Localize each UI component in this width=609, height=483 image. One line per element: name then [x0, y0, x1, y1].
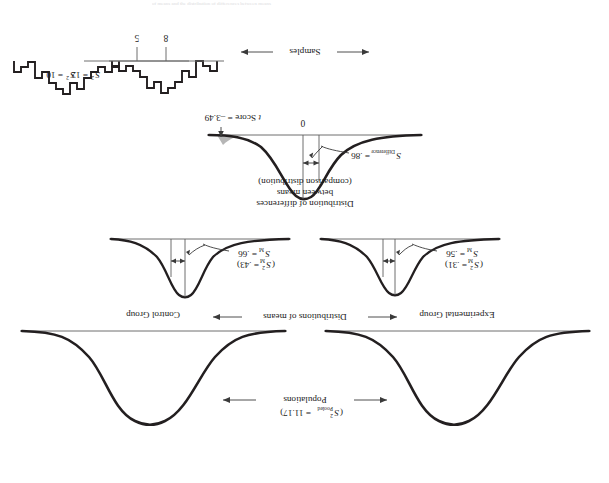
comparison-sd-label: S Difference = .86	[351, 149, 401, 161]
pooled-variance-label: ( S 2 Pooled = 11.17)	[280, 406, 343, 419]
samples-right-arrowhead	[241, 49, 248, 55]
experimental-sd-arrowhead-right	[171, 259, 176, 264]
populations-right-arrowhead	[223, 397, 230, 403]
populations-axis-label: Populations ( S 2 Pooled = 11.17)	[223, 395, 387, 419]
experimental-variance-superscript: 2	[262, 265, 265, 271]
experimental-sample-mean-label: 5	[134, 33, 139, 43]
control-sample-mean-label: 8	[163, 33, 168, 43]
experimental-variance-subscript: M	[260, 258, 265, 264]
control-population-curve	[22, 331, 285, 425]
samples-label: Samples	[289, 47, 321, 57]
experimental-sd-arrow	[171, 259, 185, 264]
control-variance-label: ( S 2 M = .31)	[445, 258, 483, 271]
experimental-sd-arrowhead-left	[180, 259, 185, 264]
experimental-sample-variance-superscript: 2	[66, 75, 69, 81]
experimental-sample-variance-value: = 10	[46, 70, 63, 80]
t-score-marker: t Score = –3.49	[204, 113, 261, 137]
experimental-sd-value: = .66	[238, 249, 257, 259]
dom-right-arrowhead	[213, 314, 220, 320]
control-sd-leader	[399, 245, 413, 255]
samples-axis-label: Samples	[241, 47, 369, 57]
comparison-sd-arrow	[303, 160, 319, 165]
comparison-zero-label: 0	[300, 118, 305, 128]
dom-left-arrowhead	[390, 314, 397, 320]
control-sd-label: S M = .56	[446, 247, 478, 259]
control-variance-superscript: 2	[470, 265, 473, 271]
control-population-group: Control Group	[20, 310, 287, 425]
control-variance-value: = .31)	[445, 260, 467, 270]
control-sample-histogram	[112, 61, 217, 93]
control-sd-arrowhead-right	[383, 259, 388, 264]
control-sd-arrow	[383, 259, 395, 264]
comparison-distribution-row: S Difference = .86 0 t Score = –3.49 Dis…	[204, 113, 423, 209]
experimental-sd-symbol: S	[265, 249, 270, 259]
control-sd-arrowhead-left	[390, 259, 395, 264]
populations-label: Populations	[283, 395, 327, 405]
pooled-variance-subscript: Pooled	[317, 406, 333, 412]
experimental-population-curve	[326, 331, 589, 425]
comparison-sd-symbol: S	[396, 151, 401, 161]
experimental-variance-label: ( S 2 M = .43)	[237, 258, 275, 271]
experimental-group-label: Experimental Group	[419, 310, 495, 320]
experimental-sd-label: S M = .66	[238, 247, 270, 259]
comparison-caption-line3: (comparison distribution)	[258, 177, 352, 187]
control-sample-variance-label: S 2 = 12	[71, 70, 100, 81]
rotated-figure-canvas: Experimental Group Control Group Populat…	[0, 0, 609, 483]
t-score-italic-t: t	[258, 113, 261, 123]
experimental-sd-subscript: M	[259, 247, 264, 253]
control-variance-subscript: M	[468, 258, 473, 264]
pooled-variance-symbol: S	[334, 408, 339, 418]
comparison-distribution-caption: Distribution of differences between mean…	[256, 177, 354, 209]
samples-row: Samples 5 S 2 = 10	[14, 33, 369, 94]
statistics-figure-svg: Experimental Group Control Group Populat…	[0, 0, 609, 483]
experimental-population-group: Experimental Group	[324, 310, 591, 425]
pooled-variance-value: = 11.17)	[280, 408, 311, 418]
control-sample-variance-symbol: S	[95, 70, 100, 80]
comparison-sd-arrowhead-right	[303, 160, 309, 165]
populations-row: Experimental Group Control Group Populat…	[20, 310, 591, 425]
control-variance-symbol: S	[474, 260, 479, 270]
comparison-sd-arrowhead-left	[314, 160, 320, 165]
figure-root: of means and the distribution of differe…	[0, 0, 609, 483]
pooled-variance-open-paren: (	[340, 408, 343, 418]
control-sample-variance-value: = 12	[71, 70, 88, 80]
control-sample-variance-superscript: 2	[91, 75, 94, 81]
control-sd-value: = .56	[446, 249, 465, 259]
experimental-variance-symbol: S	[266, 260, 271, 270]
experimental-sd-leader	[189, 245, 205, 255]
comparison-sd-subscript: Difference	[371, 149, 395, 155]
control-sd-symbol: S	[473, 249, 478, 259]
distributions-of-means-label: Distributions of means	[263, 312, 347, 322]
comparison-caption-line1: Distribution of differences	[256, 199, 354, 209]
control-sd-subscript: M	[467, 247, 472, 253]
control-sample-histogram-group: 8 S 2 = 12	[71, 33, 224, 93]
control-group-label: Control Group	[126, 310, 180, 320]
pooled-variance-superscript: 2	[330, 413, 333, 419]
samples-left-arrowhead	[362, 49, 369, 55]
comparison-sd-leader	[321, 146, 349, 153]
experimental-variance-open-paren: (	[272, 260, 275, 270]
comparison-caption-line2: between means	[276, 188, 333, 198]
control-sd-leader2	[412, 244, 437, 251]
control-variance-open-paren: (	[480, 260, 483, 270]
populations-left-arrowhead	[380, 397, 387, 403]
experimental-mean-distribution: S M = .66 ( S 2 M = .43)	[109, 239, 291, 297]
control-mean-distribution: S M = .56 ( S 2 M = .31)	[319, 239, 501, 295]
comparison-sd-value: = .86	[351, 151, 370, 161]
t-score-label: Score = –3.49	[204, 113, 256, 123]
distributions-of-means-axis-label: Distributions of means	[213, 312, 397, 322]
experimental-variance-value: = .43)	[237, 260, 259, 270]
comparison-sd-leader2	[312, 146, 323, 158]
